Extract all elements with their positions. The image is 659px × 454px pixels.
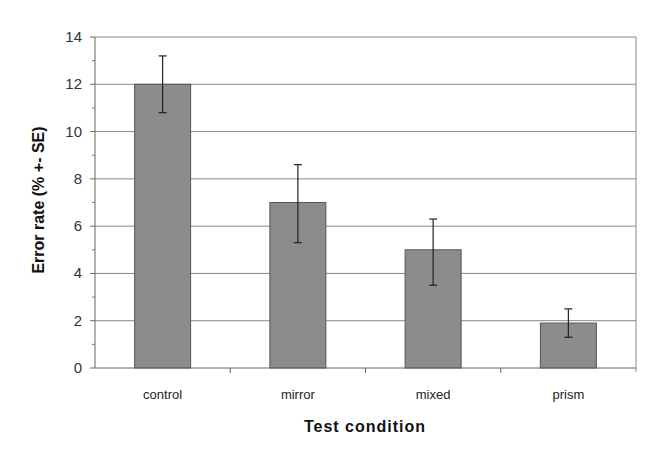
y-tick-label: 0 bbox=[74, 359, 82, 376]
x-axis-title: Test condition bbox=[304, 418, 426, 435]
x-category-label: control bbox=[143, 387, 182, 402]
y-tick-label: 10 bbox=[65, 123, 82, 140]
y-tick-label: 4 bbox=[74, 264, 82, 281]
y-tick-label: 6 bbox=[74, 217, 82, 234]
x-category-label: prism bbox=[552, 387, 584, 402]
y-tick-label: 8 bbox=[74, 170, 82, 187]
x-category-label: mirror bbox=[281, 387, 316, 402]
y-tick-label: 14 bbox=[65, 28, 82, 45]
x-category-label: mixed bbox=[416, 387, 451, 402]
y-tick-label: 12 bbox=[65, 75, 82, 92]
bar-chart: 02468101214 controlmirrormixedprism Test… bbox=[0, 0, 659, 454]
y-axis-title: Error rate (% +- SE) bbox=[30, 126, 47, 273]
error-bars bbox=[159, 56, 573, 337]
y-tick-labels: 02468101214 bbox=[65, 28, 82, 376]
bar-control bbox=[135, 84, 191, 368]
y-tick-label: 2 bbox=[74, 312, 82, 329]
x-category-labels: controlmirrormixedprism bbox=[143, 387, 584, 402]
